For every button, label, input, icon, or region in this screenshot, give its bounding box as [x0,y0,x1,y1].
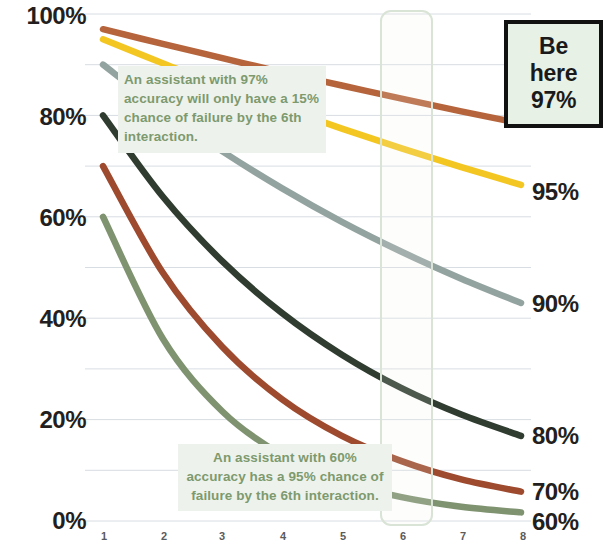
y-axis-label-5: 0% [6,507,86,535]
x-axis-label-8: 8 [508,530,538,542]
y-axis-label-0: 100% [6,2,86,30]
annotation-60-accuracy: An assistant with 60% accuracy has a 95%… [178,444,392,511]
series-line-70 [103,166,521,491]
be-here-line-2: here [530,61,577,87]
be-here-callout-box: Be here 97% [504,20,603,128]
x-axis-label-2: 2 [149,530,179,542]
y-axis-label-2: 60% [6,204,86,232]
series-end-label-80: 80% [532,422,579,450]
x-axis-label-4: 4 [268,530,298,542]
x-axis-label-7: 7 [448,530,478,542]
x-axis-label-3: 3 [207,530,237,542]
y-axis-label-1: 80% [6,103,86,131]
x-axis-label-5: 5 [328,530,358,542]
be-here-line-3: 97% [531,88,576,114]
x-axis-label-1: 1 [89,530,119,542]
be-here-line-1: Be [539,34,568,60]
series-end-label-90: 90% [532,290,579,318]
series-end-label-95: 95% [532,178,579,206]
series-end-label-60: 60% [532,508,579,536]
y-axis-label-3: 40% [6,305,86,333]
x-axis-label-6: 6 [388,530,418,542]
y-axis-label-4: 20% [6,406,86,434]
series-end-label-70: 70% [532,478,579,506]
annotation-97-accuracy: An assistant with 97% accuracy will only… [118,66,326,153]
